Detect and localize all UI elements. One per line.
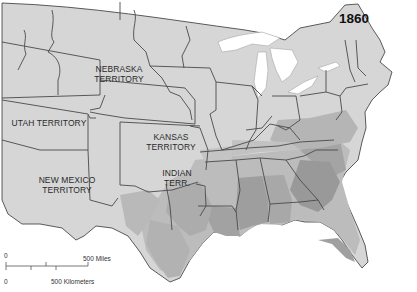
- scale-miles-zero: 0: [4, 252, 8, 259]
- label-line: TERRITORY: [32, 185, 102, 195]
- label-nebraska-territory: NEBRASKA TERRITORY: [84, 64, 154, 84]
- label-line: UTAH TERRITORY: [10, 118, 88, 128]
- us-map-1860: [0, 0, 417, 292]
- label-line: NEW MEXICO: [32, 175, 102, 185]
- scale-km-label: 500 Kilometers: [51, 278, 94, 285]
- label-line: INDIAN: [152, 168, 202, 178]
- label-utah-territory: UTAH TERRITORY: [10, 118, 88, 128]
- scale-bar: 0 500 Miles 0 500 Kilometers: [3, 252, 143, 290]
- label-line: TERRITORY: [84, 74, 154, 84]
- label-line: TERR.: [152, 178, 202, 188]
- label-line: TERRITORY: [136, 142, 206, 152]
- label-line: NEBRASKA: [84, 64, 154, 74]
- scale-miles-label: 500 Miles: [83, 255, 111, 262]
- label-line: KANSAS: [136, 132, 206, 142]
- label-indian-territory: INDIAN TERR.: [152, 168, 202, 188]
- label-new-mexico-territory: NEW MEXICO TERRITORY: [32, 175, 102, 195]
- label-kansas-territory: KANSAS TERRITORY: [136, 132, 206, 152]
- map-year-title: 1860: [339, 11, 369, 26]
- scale-km-zero: 0: [4, 278, 8, 285]
